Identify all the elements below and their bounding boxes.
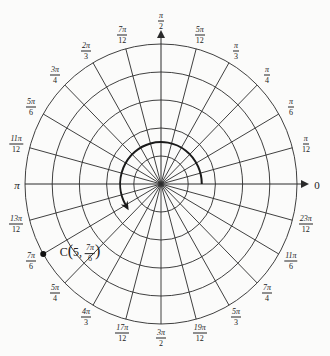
angle-label-num: 5π (231, 308, 241, 318)
angle-label-den: 4 (265, 293, 269, 302)
angle-ray (161, 184, 279, 254)
polar-diagram: 0π12π6π4π35π12π27π122π33π45π611π12π13π12… (0, 0, 330, 356)
point-c-label: C(5, 7π 6 ) (60, 243, 101, 263)
angle-label: 7π12 (117, 26, 127, 45)
angle-label-num: 17π (115, 323, 129, 333)
angle-label: 4π3 (81, 308, 91, 327)
angle-ray (161, 63, 229, 184)
angle-ray (30, 148, 161, 184)
angle-label: π2 (158, 12, 164, 31)
angle-label-num: 3π (50, 66, 60, 76)
angle-label-den: 12 (12, 145, 20, 154)
angle-label-num: 7π (117, 26, 127, 36)
angle-label-den: 6 (29, 262, 33, 271)
angle-label-num: 5π (195, 26, 205, 36)
angle-label: 5π12 (195, 26, 205, 45)
point-name: C (60, 245, 68, 259)
angle-label: π6 (288, 98, 294, 117)
angle-label: 23π12 (299, 214, 313, 233)
angle-label-num: 7π (262, 283, 272, 293)
angle-label-den: 3 (84, 318, 88, 327)
angle-label-den: 3 (84, 51, 88, 60)
angle-label-num: 5π (50, 283, 60, 293)
angle-ray (161, 85, 257, 184)
angle-label: π4 (264, 66, 270, 85)
angle-label-den: 2 (159, 339, 163, 348)
angle-label: 5π4 (50, 283, 60, 302)
angle-label: 5π6 (26, 98, 36, 117)
angle-label-den: 12 (196, 333, 204, 342)
angle-label: 0 (314, 180, 320, 191)
point-c (40, 251, 46, 257)
angle-label: π12 (302, 135, 310, 154)
polar-grid (0, 0, 330, 356)
angle-label-den: 6 (289, 108, 293, 117)
angle-ray (65, 85, 161, 184)
angle-label: 2π3 (81, 41, 91, 60)
angle-label: 5π3 (231, 308, 241, 327)
angle-label-den: 4 (53, 293, 57, 302)
angle-label-den: 12 (302, 224, 310, 233)
angle-ray (161, 49, 196, 184)
angle-ray (43, 114, 161, 184)
angle-label: 3π2 (156, 329, 166, 348)
angle-label: 19π12 (193, 323, 207, 342)
angle-label: 13π12 (9, 214, 23, 233)
angle-label-num: 5π (26, 98, 36, 108)
angle-label: 11π12 (9, 135, 22, 154)
angle-label-num: 7π (26, 252, 36, 262)
angle-label-den: 4 (53, 76, 57, 85)
angle-ray (30, 184, 161, 220)
point-theta-num: 7π (85, 244, 95, 254)
angle-label-den: 12 (302, 145, 310, 154)
angle-label-num: π (264, 66, 270, 76)
angle-ray (161, 148, 292, 184)
angle-label-num: π (233, 41, 239, 51)
angle-label-den: 12 (12, 224, 20, 233)
angle-label-num: 19π (193, 323, 207, 333)
angle-label-den: 6 (29, 108, 33, 117)
angle-ray (161, 184, 292, 220)
angle-label-den: 6 (289, 262, 293, 271)
angle-label: 7π4 (262, 283, 272, 302)
angle-label-num: π (158, 12, 164, 22)
angle-label: π3 (233, 41, 239, 60)
angle-label-num: 23π (299, 214, 313, 224)
angle-ray (126, 184, 161, 319)
angle-ray (161, 184, 196, 319)
angle-label: 3π4 (50, 66, 60, 85)
angle-label-den: 12 (196, 36, 204, 45)
angle-label-num: 4π (81, 308, 91, 318)
angle-ray (161, 184, 257, 283)
angle-label-num: 11π (9, 135, 22, 145)
angle-ray (161, 184, 229, 305)
angle-label-num: 2π (81, 41, 91, 51)
angle-label-num: 3π (156, 329, 166, 339)
angle-label: 11π6 (284, 252, 297, 271)
angle-ray (126, 49, 161, 184)
angle-label: π (14, 180, 20, 191)
angle-label-num: π (303, 135, 309, 145)
angle-ray (93, 63, 161, 184)
angle-label-den: 4 (265, 76, 269, 85)
angle-label: 17π12 (115, 323, 129, 342)
angle-ray (161, 114, 279, 184)
angle-label-num: π (288, 98, 294, 108)
angle-label-den: 12 (118, 333, 126, 342)
angle-label-num: 13π (9, 214, 23, 224)
point-theta-den: 6 (88, 254, 92, 263)
angle-ray (65, 184, 161, 283)
point-radius: 5, (73, 245, 82, 259)
angle-label-den: 12 (118, 36, 126, 45)
angle-label-num: 11π (284, 252, 297, 262)
angle-label-den: 2 (159, 22, 163, 31)
angle-label-den: 3 (234, 318, 238, 327)
angle-label-den: 3 (234, 51, 238, 60)
angle-label: 7π6 (26, 252, 36, 271)
